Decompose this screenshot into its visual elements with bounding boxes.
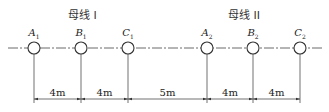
dimension-label: 4m: [50, 87, 66, 98]
arrowhead-icon: [249, 98, 253, 101]
arrowhead-icon: [124, 98, 128, 101]
conductor-circle-b2: [247, 42, 259, 54]
dimension-label: 4m: [97, 87, 113, 98]
dimension-label: 4m: [222, 87, 238, 98]
arrowhead-icon: [77, 98, 81, 101]
conductor-circle-c2: [294, 42, 306, 54]
node-label-a1: A1: [28, 27, 39, 40]
conductor-circle-b1: [75, 42, 87, 54]
arrowhead-icon: [203, 98, 207, 101]
node-label-a2: A2: [201, 27, 212, 40]
arrowhead-icon: [34, 98, 38, 101]
node-label-c1: C1: [122, 27, 133, 40]
arrowhead-icon: [296, 98, 300, 101]
busbar-1-title: 母线 I: [68, 6, 97, 22]
arrowhead-icon: [253, 98, 257, 101]
busbar-2-title: 母线 II: [228, 6, 260, 22]
conductor-circle-a1: [28, 42, 40, 54]
arrowhead-icon: [128, 98, 132, 101]
dimension-label: 4m: [269, 87, 285, 98]
node-label-b2: B2: [247, 27, 258, 40]
conductor-circle-c1: [122, 42, 134, 54]
node-label-b1: B1: [75, 27, 86, 40]
arrowhead-icon: [81, 98, 85, 101]
node-label-c2: C2: [294, 27, 305, 40]
conductor-circle-a2: [201, 42, 213, 54]
dimension-label: 5m: [160, 87, 176, 98]
arrowhead-icon: [207, 98, 211, 101]
